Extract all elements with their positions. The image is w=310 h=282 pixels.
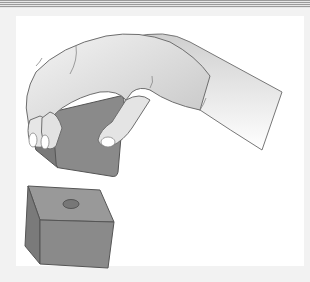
fingernail [29,133,37,147]
illustration [0,0,310,282]
image-frame [0,0,310,282]
cube-with-hole [25,186,114,268]
fingernail [41,135,49,149]
hole [63,200,79,209]
thumbnail [101,137,115,147]
